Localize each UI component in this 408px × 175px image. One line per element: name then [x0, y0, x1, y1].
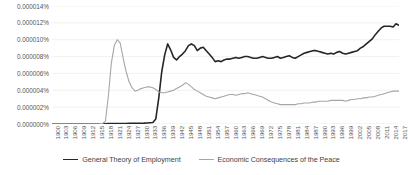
y-axis-tick-label: 0.000006% [17, 70, 49, 77]
chart-legend: General Theory of Employment Economic Co… [0, 155, 403, 164]
x-axis-tick-label: 1939 [170, 126, 177, 139]
x-axis-tick-label: 1984 [304, 126, 311, 139]
x-axis-tick-label: 1948 [197, 126, 204, 139]
x-axis-tick-label: 1999 [348, 126, 355, 139]
legend-label: General Theory of Employment [82, 155, 180, 164]
x-axis-tick-label: 1963 [241, 126, 248, 139]
x-axis-tick-label: 1924 [126, 126, 133, 139]
x-axis-tick-label: 1960 [233, 126, 240, 139]
x-axis-tick-label: 1900 [55, 126, 62, 139]
series-lines [52, 24, 399, 124]
x-axis-tick-label: 1951 [206, 126, 213, 139]
y-axis-tick-label: 0.000004% [17, 87, 49, 94]
legend-item-economic-consequences-of-the-peace[interactable]: Economic Consequences of the Peace [199, 155, 340, 164]
series-line-1 [52, 40, 399, 124]
x-axis-tick-label: 1918 [108, 126, 115, 139]
x-axis-tick-label: 1990 [322, 126, 329, 139]
y-axis-tick-label: 0.000012% [17, 19, 49, 26]
y-axis-tick-label: 0.000008% [17, 53, 49, 60]
x-axis-tick-label: 1966 [250, 126, 257, 139]
y-axis-tick-label: 0.000002% [17, 104, 49, 111]
x-axis-tick-label: 1906 [72, 126, 79, 139]
x-axis-tick-label: 1993 [330, 126, 337, 139]
x-axis-tick-label: 1969 [259, 126, 266, 139]
x-axis-tick-label: 1957 [224, 126, 231, 139]
x-axis-tick-label: 1981 [295, 126, 302, 139]
legend-item-general-theory-of-employment[interactable]: General Theory of Employment [63, 155, 180, 164]
plot-area [52, 6, 399, 124]
x-axis-tick-labels: 1900190319061909191219151918192119241927… [52, 126, 399, 152]
x-axis-tick-label: 1909 [81, 126, 88, 139]
x-axis-tick-label: 1936 [161, 126, 168, 139]
x-axis-tick-label: 1978 [286, 126, 293, 139]
x-axis-tick-label: 2011 [384, 126, 391, 139]
y-axis-tick-label: 0.000014% [17, 3, 49, 10]
y-axis-tick-label: 0.000010% [17, 36, 49, 43]
x-axis-tick-label: 1921 [117, 126, 124, 139]
x-axis-tick-label: 1942 [179, 126, 186, 139]
x-axis-tick-label: 2008 [375, 126, 382, 139]
x-axis-tick-label: 1933 [152, 126, 159, 139]
x-axis-tick-label: 1972 [268, 126, 275, 139]
y-axis-tick-labels: 0.000014%0.000012%0.000010%0.000008%0.00… [0, 0, 52, 132]
x-axis-tick-label: 2017 [402, 126, 408, 139]
legend-line-icon [199, 159, 214, 160]
x-axis-tick-label: 1930 [144, 126, 151, 139]
x-axis-tick-label: 1996 [339, 126, 346, 139]
series-line-0 [52, 24, 399, 124]
x-axis-tick-label: 1945 [188, 126, 195, 139]
x-axis-tick-label: 1912 [90, 126, 97, 139]
gridlines [52, 6, 399, 124]
x-axis-tick-label: 1903 [63, 126, 70, 139]
x-axis-tick-label: 1975 [277, 126, 284, 139]
x-axis-tick-label: 1915 [99, 126, 106, 139]
x-axis-tick-label: 2002 [357, 126, 364, 139]
plot-svg [52, 6, 399, 124]
x-axis-tick-label: 1954 [215, 126, 222, 139]
y-axis-tick-label: 0.000000% [17, 121, 49, 128]
x-axis-tick-label: 2005 [366, 126, 373, 139]
legend-label: Economic Consequences of the Peace [218, 155, 340, 164]
x-axis-tick-label: 1927 [135, 126, 142, 139]
x-axis-tick-label: 2014 [393, 126, 400, 139]
legend-line-icon [63, 159, 78, 160]
x-axis-tick-label: 1987 [313, 126, 320, 139]
